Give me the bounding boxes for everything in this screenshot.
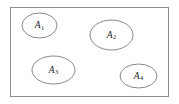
set-region-a1: A1 [22, 13, 57, 38]
region-label-a1: A1 [34, 20, 44, 31]
set-region-a3: A3 [32, 56, 75, 84]
set-regions-group: A1A2A3A4 [22, 13, 157, 88]
set-region-a4: A4 [120, 64, 157, 88]
set-region-a2: A2 [90, 20, 133, 50]
set-diagram-canvas: A1A2A3A4 [0, 0, 179, 104]
region-label-a3: A3 [48, 65, 58, 76]
set-diagram-svg: A1A2A3A4 [0, 0, 179, 104]
region-label-a2: A2 [106, 30, 116, 41]
region-label-a4: A4 [133, 71, 144, 82]
